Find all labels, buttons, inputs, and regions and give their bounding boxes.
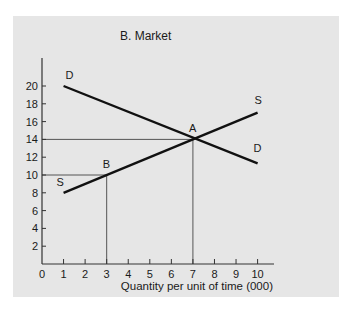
demand-label-start: D bbox=[66, 69, 74, 81]
x-tick-label: 9 bbox=[233, 268, 239, 280]
y-tick-label: 14 bbox=[26, 133, 38, 145]
x-tick-label: 1 bbox=[60, 268, 66, 280]
y-tick-label: 10 bbox=[26, 169, 38, 181]
y-tick-label: 12 bbox=[26, 151, 38, 163]
x-tick-label: 0 bbox=[39, 268, 45, 280]
x-tick-label: 8 bbox=[211, 268, 217, 280]
demand-label-end: D bbox=[254, 142, 262, 154]
y-tick-label: 18 bbox=[26, 98, 38, 110]
guide-lines bbox=[42, 139, 193, 264]
y-tick-label: 4 bbox=[32, 222, 38, 234]
x-axis-label: Quantity per unit of time (000) bbox=[121, 280, 273, 292]
supply-demand-chart: B. Market 0123456789102468101214161820 D… bbox=[0, 0, 352, 322]
supply-label-start: S bbox=[57, 176, 64, 188]
x-tick-label: 5 bbox=[147, 268, 153, 280]
x-tick-label: 10 bbox=[251, 268, 263, 280]
x-tick-label: 2 bbox=[82, 268, 88, 280]
point-label-b: B bbox=[103, 158, 110, 170]
y-tick-label: 2 bbox=[32, 240, 38, 252]
y-tick-label: 16 bbox=[26, 116, 38, 128]
chart-title: B. Market bbox=[120, 29, 172, 43]
x-tick-label: 3 bbox=[104, 268, 110, 280]
x-tick-label: 4 bbox=[125, 268, 131, 280]
y-tick-label: 20 bbox=[26, 80, 38, 92]
supply-label-end: S bbox=[255, 94, 262, 106]
curve-labels: DDSSAB bbox=[57, 69, 262, 188]
point-label-a: A bbox=[189, 122, 197, 134]
y-tick-label: 8 bbox=[32, 187, 38, 199]
x-tick-label: 6 bbox=[168, 268, 174, 280]
axes: 0123456789102468101214161820 bbox=[26, 58, 274, 280]
x-tick-label: 7 bbox=[190, 268, 196, 280]
y-tick-label: 6 bbox=[32, 205, 38, 217]
